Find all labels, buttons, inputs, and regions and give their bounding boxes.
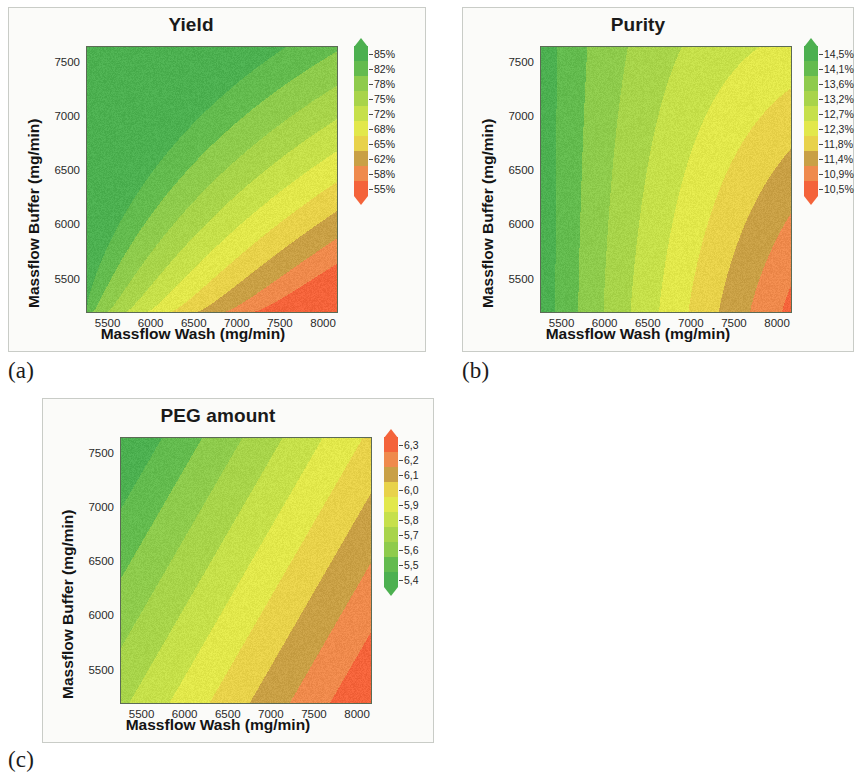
figure-panel-a: Yield Massflow Buffer (mg/min) 550060006… bbox=[8, 7, 426, 352]
y-tick-label: 5500 bbox=[74, 664, 114, 676]
colorbar-tick-mark bbox=[369, 54, 373, 55]
colorbar-tick-mark bbox=[369, 189, 373, 190]
colorbar-tick-label: 10,5% bbox=[824, 183, 854, 195]
colorbar-peg-amount: 6,36,26,16,05,95,85,75,65,55,4 bbox=[384, 437, 454, 587]
colorbar-tick-mark bbox=[819, 69, 823, 70]
y-tick-label: 7000 bbox=[40, 110, 80, 122]
colorbar-gradient bbox=[354, 46, 368, 196]
colorbar-tick-mark bbox=[369, 159, 373, 160]
colorbar-tick-label: 72% bbox=[374, 108, 395, 120]
chart-title-purity: Purity bbox=[463, 14, 853, 36]
colorbar-tick-mark bbox=[819, 84, 823, 85]
figure-panel-b: Purity Massflow Buffer (mg/min) 55006000… bbox=[462, 7, 854, 352]
y-tick-label: 6500 bbox=[74, 555, 114, 567]
colorbar-tick-mark bbox=[399, 460, 403, 461]
colorbar-purity: 14,5%14,1%13,6%13,2%12,7%12,3%11,8%11,4%… bbox=[804, 46, 858, 196]
colorbar-tick-label: 5,5 bbox=[404, 559, 419, 571]
y-tick-label: 6000 bbox=[40, 218, 80, 230]
colorbar-tick-mark bbox=[819, 174, 823, 175]
colorbar-top-arrow-icon bbox=[804, 38, 818, 47]
contour-plot-purity bbox=[540, 46, 792, 313]
contour-plot-yield bbox=[86, 46, 338, 313]
y-tick-label: 6500 bbox=[494, 164, 534, 176]
colorbar-tick-mark bbox=[399, 565, 403, 566]
colorbar-tick-mark bbox=[399, 535, 403, 536]
colorbar-tick-mark bbox=[399, 520, 403, 521]
colorbar-tick-label: 14,1% bbox=[824, 63, 854, 75]
colorbar-tick-label: 6,1 bbox=[404, 469, 419, 481]
colorbar-tick-label: 78% bbox=[374, 78, 395, 90]
colorbar-tick-label: 55% bbox=[374, 183, 395, 195]
chart-title-peg-amount: PEG amount bbox=[43, 405, 433, 427]
subfigure-label-b: (b) bbox=[462, 358, 489, 384]
colorbar-tick-label: 12,3% bbox=[824, 123, 854, 135]
colorbar-tick-mark bbox=[399, 580, 403, 581]
colorbar-tick-label: 62% bbox=[374, 153, 395, 165]
colorbar-tick-label: 75% bbox=[374, 93, 395, 105]
colorbar-tick-mark bbox=[819, 54, 823, 55]
x-axis-title-b: Massflow Wash (mg/min) bbox=[463, 325, 853, 343]
chart-title-yield: Yield bbox=[9, 14, 425, 36]
colorbar-tick-label: 68% bbox=[374, 123, 395, 135]
y-tick-label: 5500 bbox=[40, 273, 80, 285]
colorbar-tick-mark bbox=[399, 490, 403, 491]
colorbar-tick-label: 14,5% bbox=[824, 48, 854, 60]
colorbar-tick-label: 13,2% bbox=[824, 93, 854, 105]
colorbar-tick-label: 58% bbox=[374, 168, 395, 180]
y-tick-label: 6500 bbox=[40, 164, 80, 176]
y-tick-label: 6000 bbox=[494, 218, 534, 230]
colorbar-tick-mark bbox=[819, 159, 823, 160]
colorbar-tick-label: 65% bbox=[374, 138, 395, 150]
colorbar-tick-mark bbox=[369, 174, 373, 175]
colorbar-bottom-arrow-icon bbox=[384, 587, 398, 596]
colorbar-tick-mark bbox=[399, 475, 403, 476]
colorbar-tick-mark bbox=[819, 114, 823, 115]
colorbar-tick-label: 5,7 bbox=[404, 529, 419, 541]
colorbar-tick-label: 5,4 bbox=[404, 574, 419, 586]
colorbar-tick-mark bbox=[819, 129, 823, 130]
y-tick-label: 7000 bbox=[494, 110, 534, 122]
colorbar-tick-mark bbox=[399, 445, 403, 446]
colorbar-tick-mark bbox=[819, 189, 823, 190]
colorbar-gradient bbox=[384, 437, 398, 587]
colorbar-tick-mark bbox=[369, 129, 373, 130]
colorbar-tick-label: 6,2 bbox=[404, 454, 419, 466]
colorbar-tick-mark bbox=[369, 144, 373, 145]
y-tick-label: 7000 bbox=[74, 501, 114, 513]
colorbar-tick-label: 10,9% bbox=[824, 168, 854, 180]
contour-canvas-purity bbox=[541, 47, 791, 312]
subfigure-label-a: (a) bbox=[8, 358, 34, 384]
colorbar-tick-label: 6,0 bbox=[404, 484, 419, 496]
colorbar-tick-mark bbox=[369, 84, 373, 85]
colorbar-yield: 85%82%78%75%72%68%65%62%58%55% bbox=[354, 46, 424, 196]
colorbar-tick-label: 5,8 bbox=[404, 514, 419, 526]
y-tick-label: 7500 bbox=[40, 56, 80, 68]
colorbar-tick-mark bbox=[819, 99, 823, 100]
colorbar-bottom-arrow-icon bbox=[354, 196, 368, 205]
colorbar-tick-mark bbox=[399, 505, 403, 506]
colorbar-top-arrow-icon bbox=[384, 429, 398, 438]
y-tick-label: 6000 bbox=[74, 609, 114, 621]
colorbar-tick-label: 5,9 bbox=[404, 499, 419, 511]
contour-canvas-peg-amount bbox=[121, 438, 371, 703]
colorbar-tick-label: 11,4% bbox=[824, 153, 853, 165]
colorbar-tick-label: 6,3 bbox=[404, 439, 419, 451]
colorbar-tick-mark bbox=[399, 550, 403, 551]
colorbar-bottom-arrow-icon bbox=[804, 196, 818, 205]
x-axis-title-a: Massflow Wash (mg/min) bbox=[9, 325, 425, 343]
contour-canvas-yield bbox=[87, 47, 337, 312]
colorbar-tick-label: 11,8% bbox=[824, 138, 853, 150]
y-tick-label: 7500 bbox=[74, 447, 114, 459]
y-tick-label: 5500 bbox=[494, 273, 534, 285]
colorbar-gradient bbox=[804, 46, 818, 196]
colorbar-tick-label: 85% bbox=[374, 48, 395, 60]
colorbar-tick-mark bbox=[369, 69, 373, 70]
x-axis-title-c: Massflow Wash (mg/min) bbox=[43, 716, 433, 734]
colorbar-tick-mark bbox=[819, 144, 823, 145]
contour-plot-peg-amount bbox=[120, 437, 372, 704]
colorbar-tick-mark bbox=[369, 114, 373, 115]
colorbar-tick-label: 82% bbox=[374, 63, 395, 75]
y-tick-label: 7500 bbox=[494, 56, 534, 68]
colorbar-tick-label: 13,6% bbox=[824, 78, 854, 90]
figure-panel-c: PEG amount Massflow Buffer (mg/min) 5500… bbox=[42, 398, 434, 743]
